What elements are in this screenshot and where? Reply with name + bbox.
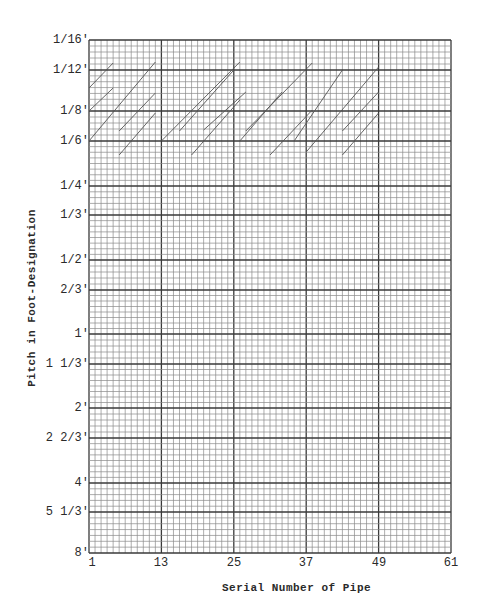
y-tick-label: 4'	[75, 476, 89, 490]
x-tick-label: 1	[88, 556, 95, 570]
y-tick-label: 1/16'	[53, 33, 89, 47]
y-tick-label: 2'	[75, 401, 89, 415]
x-tick-label: 25	[227, 556, 241, 570]
y-tick-label: 2 2/3'	[46, 431, 89, 445]
x-tick-label: 61	[444, 556, 458, 570]
chart-area: Pitch in Foot-Designation Serial Number …	[0, 0, 484, 608]
y-tick-label: 2/3'	[60, 283, 89, 297]
y-tick-label: 8'	[75, 546, 89, 560]
x-tick-label: 37	[299, 556, 313, 570]
y-axis-title: Pitch in Foot-Designation	[26, 209, 38, 387]
y-tick-label: 1/2'	[60, 253, 89, 267]
y-tick-label: 1/4'	[60, 179, 89, 193]
y-tick-label: 5 1/3'	[46, 505, 89, 519]
y-tick-label: 1/12'	[53, 63, 89, 77]
x-tick-label: 13	[154, 556, 168, 570]
y-tick-label: 1/3'	[60, 208, 89, 222]
x-axis-title: Serial Number of Pipe	[222, 582, 371, 594]
y-tick-label: 1/8'	[60, 104, 89, 118]
y-tick-label: 1/6'	[60, 134, 89, 148]
pipe-rank-segment	[180, 70, 234, 131]
y-tick-label: 1 1/3'	[46, 357, 89, 371]
y-tick-label: 1'	[75, 327, 89, 341]
x-tick-label: 49	[372, 556, 386, 570]
